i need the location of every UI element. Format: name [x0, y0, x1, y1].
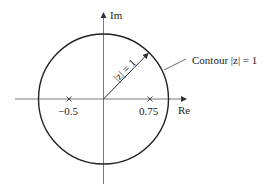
pole-label-0.75: 0.75	[139, 105, 159, 117]
contour-label: Contour |z| = 1	[192, 54, 257, 66]
real-axis-label: Re	[178, 104, 190, 116]
contour-leader-line	[164, 59, 186, 70]
z-plane-diagram: |z| = 1 −0.5 0.75 Re Im Contour |z| = 1	[0, 0, 267, 194]
radius-label: |z| = 1	[111, 56, 138, 83]
imag-axis-label: Im	[110, 9, 123, 21]
pole-label-neg-0.5: −0.5	[58, 105, 78, 117]
